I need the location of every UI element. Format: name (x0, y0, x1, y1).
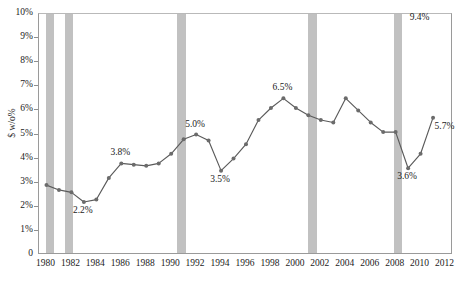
series-marker (232, 157, 236, 161)
series-layer (39, 14, 452, 254)
series-marker (57, 188, 61, 192)
point-label: 2.2% (73, 205, 93, 215)
series-marker (331, 120, 335, 124)
series-marker (182, 137, 186, 141)
point-label: 3.8% (110, 147, 130, 157)
y-tick-label: 7% (20, 81, 33, 91)
y-tick-label: 10% (16, 8, 33, 18)
series-marker (394, 130, 398, 134)
series-marker (132, 163, 136, 167)
point-label: 5.0% (185, 119, 205, 129)
x-tick-label: 1988 (136, 258, 155, 268)
series-marker (431, 116, 435, 120)
y-tick-label: 6% (20, 105, 33, 115)
y-tick-label: 4% (20, 153, 33, 163)
x-tick-label: 2002 (310, 258, 329, 268)
series-line (46, 98, 433, 202)
series-marker (369, 120, 373, 124)
series-marker (319, 118, 323, 122)
series-marker (194, 133, 198, 137)
series-marker (269, 106, 273, 110)
series-marker (44, 183, 48, 187)
x-tick-label: 2012 (435, 258, 454, 268)
series-marker (281, 96, 285, 100)
series-marker (356, 108, 360, 112)
y-axis-title: $ w/o% (7, 93, 17, 153)
series-marker (82, 200, 86, 204)
series-marker (406, 166, 410, 170)
y-tick-label: 2% (20, 201, 33, 211)
x-tick-label: 2004 (335, 258, 354, 268)
series-marker (256, 118, 260, 122)
point-label: 9.4% (410, 12, 430, 22)
y-tick-label: 8% (20, 56, 33, 66)
x-tick-label: 1982 (61, 258, 80, 268)
x-tick-label: 1998 (260, 258, 279, 268)
x-tick-label: 1992 (186, 258, 205, 268)
x-tick-label: 1990 (161, 258, 180, 268)
series-marker (294, 106, 298, 110)
line-chart: $ w/o% 10%9%8%7%6%5%4%3%2%1%0 2.2%3.8%5.… (0, 0, 475, 281)
series-marker (344, 96, 348, 100)
point-label: 6.5% (273, 82, 293, 92)
x-tick-label: 2010 (410, 258, 429, 268)
y-tick-label: 5% (20, 129, 33, 139)
x-tick-label: 1980 (36, 258, 55, 268)
point-label: 5.7% (435, 121, 455, 131)
y-tick-label: 9% (20, 32, 33, 42)
x-tick-label: 1984 (86, 258, 105, 268)
y-axis: $ w/o% 10%9%8%7%6%5%4%3%2%1%0 (0, 0, 38, 267)
x-tick-label: 1996 (236, 258, 255, 268)
series-marker (381, 130, 385, 134)
point-label: 3.5% (210, 174, 230, 184)
plot-area (38, 13, 452, 254)
series-marker (107, 176, 111, 180)
series-marker (119, 161, 123, 165)
x-tick-label: 1986 (111, 258, 130, 268)
x-axis: 1980198219841986198819901992199419961998… (38, 254, 452, 276)
point-label: 3.6% (397, 171, 417, 181)
series-marker (169, 152, 173, 156)
series-marker (144, 164, 148, 168)
x-tick-label: 1994 (211, 258, 230, 268)
x-tick-label: 2000 (285, 258, 304, 268)
x-tick-label: 2008 (385, 258, 404, 268)
series-marker (207, 139, 211, 143)
x-tick-label: 2006 (360, 258, 379, 268)
series-marker (157, 161, 161, 165)
series-marker (69, 190, 73, 194)
series-marker (419, 152, 423, 156)
series-marker (219, 169, 223, 173)
series-marker (244, 142, 248, 146)
y-tick-label: 1% (20, 225, 33, 235)
y-tick-label: 3% (20, 177, 33, 187)
series-marker (306, 113, 310, 117)
series-marker (94, 198, 98, 202)
y-tick-label: 0 (28, 249, 33, 259)
